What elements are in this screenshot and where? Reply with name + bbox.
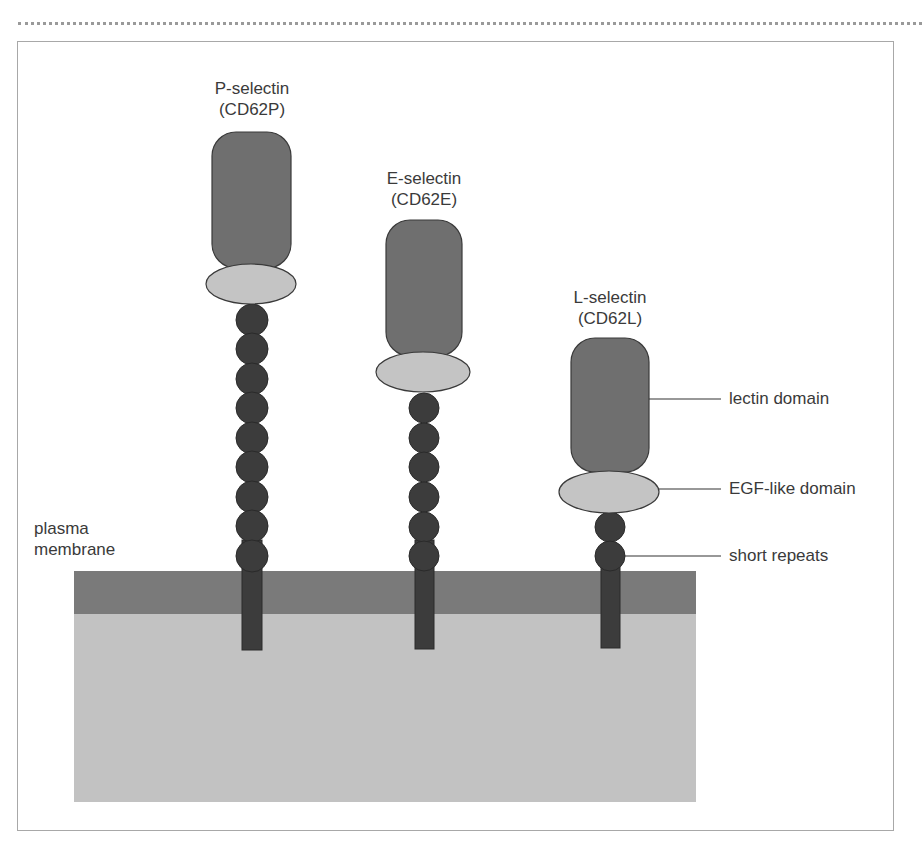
l-selectin-name: L-selectin xyxy=(550,287,670,308)
selectin-diagram xyxy=(0,0,922,845)
membrane-label-line-1: plasma xyxy=(34,518,115,539)
p-selectin-lectin-domain xyxy=(212,132,291,268)
l-selectin-cd: (CD62L) xyxy=(550,308,670,329)
e-selectin-title: E-selectin (CD62E) xyxy=(364,168,484,210)
l-selectin-short-repeats xyxy=(595,512,625,571)
l-selectin-title: L-selectin (CD62L) xyxy=(550,287,670,329)
e-selectin-cd: (CD62E) xyxy=(364,189,484,210)
p-selectin-egf-domain xyxy=(206,264,296,304)
plasma-membrane-label: plasma membrane xyxy=(34,518,115,560)
l-selectin-lectin-domain xyxy=(571,338,649,472)
p-selectin-cd: (CD62P) xyxy=(192,99,312,120)
short-repeats-label: short repeats xyxy=(729,545,828,566)
p-selectin-short-repeats xyxy=(236,304,268,572)
e-selectin-name: E-selectin xyxy=(364,168,484,189)
membrane-label-line-2: membrane xyxy=(34,539,115,560)
l-selectin-transmembrane-stem xyxy=(601,560,620,648)
l-selectin-egf-domain xyxy=(559,471,659,513)
p-selectin-title: P-selectin (CD62P) xyxy=(192,78,312,120)
e-selectin-egf-domain xyxy=(376,352,470,392)
egf-domain-label: EGF-like domain xyxy=(729,478,856,499)
e-selectin-lectin-domain xyxy=(386,220,462,356)
p-selectin-name: P-selectin xyxy=(192,78,312,99)
lectin-domain-label: lectin domain xyxy=(729,388,829,409)
